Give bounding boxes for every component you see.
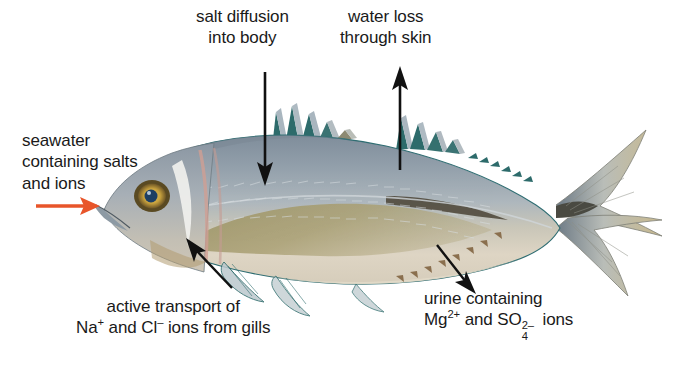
seawater-label: seawater containing salts and ions: [22, 130, 138, 194]
sulfate-ion-subscript: 4: [522, 329, 528, 343]
salt-diffusion-label: salt diffusion into body: [196, 6, 289, 49]
active-transport-label: active transport of Na+ and Cl– ions fro…: [76, 296, 270, 339]
seawater-intake-arrow: [36, 197, 100, 215]
active-transport-conjunction: and: [104, 318, 141, 337]
urine-label: urine containing Mg2+ and SO2–4 ions: [424, 288, 573, 331]
urine-line-2: Mg2+ and SO2–4 ions: [424, 309, 573, 330]
active-transport-line-2: Na+ and Cl– ions from gills: [76, 317, 270, 338]
seawater-line-3: and ions: [22, 173, 138, 194]
sulfate-ion-symbol: SO: [497, 310, 521, 329]
anal-fin: [352, 284, 384, 312]
second-dorsal-fin: [396, 115, 465, 154]
osmoregulation-figure: salt diffusion into body water loss thro…: [0, 0, 681, 367]
urine-line-1: urine containing: [424, 288, 573, 309]
seawater-line-1: seawater: [22, 130, 138, 151]
salt-diffusion-line-1: salt diffusion: [196, 6, 289, 27]
water-loss-line-1: water loss: [340, 6, 431, 27]
urine-conjunction: and: [460, 310, 497, 329]
salt-diffusion-arrow: [257, 72, 273, 186]
caudal-fin: [556, 130, 662, 296]
salt-diffusion-line-2: into body: [196, 27, 289, 48]
magnesium-ion-charge: 2+: [447, 309, 460, 321]
active-transport-line-1: active transport of: [76, 296, 270, 317]
pelvic-fin: [272, 276, 310, 316]
water-loss-label: water loss through skin: [340, 6, 431, 49]
fish-eye: [134, 180, 170, 212]
seawater-line-2: containing salts: [22, 151, 138, 172]
urine-tail: ions: [538, 310, 573, 329]
active-transport-tail: ions from gills: [163, 318, 270, 337]
water-loss-line-2: through skin: [340, 27, 431, 48]
magnesium-ion-symbol: Mg: [424, 310, 447, 329]
sodium-ion-symbol: Na: [76, 318, 98, 337]
chloride-ion-symbol: Cl: [141, 318, 157, 337]
